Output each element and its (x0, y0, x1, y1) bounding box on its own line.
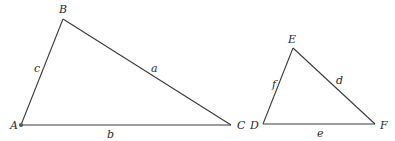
side-label-b: b (107, 128, 114, 141)
triangle-abc: A B C c a b (9, 3, 246, 141)
side-f (263, 48, 293, 124)
triangles-diagram: A B C c a b D E F f d e (0, 0, 395, 141)
side-a (63, 19, 231, 125)
vertex-label-f: F (379, 119, 388, 132)
side-d (293, 48, 375, 124)
side-label-d: d (336, 74, 343, 87)
vertex-label-b: B (58, 3, 67, 16)
vertex-a-dot-icon (19, 123, 23, 127)
vertex-label-a: A (9, 119, 18, 132)
vertex-label-e: E (287, 33, 296, 46)
side-label-c: c (34, 62, 40, 75)
vertex-label-d: D (249, 119, 259, 132)
side-label-e: e (317, 127, 324, 140)
side-label-a: a (151, 62, 158, 75)
side-c (21, 19, 63, 125)
triangle-def: D E F f d e (249, 33, 388, 140)
vertex-label-c: C (237, 119, 246, 132)
